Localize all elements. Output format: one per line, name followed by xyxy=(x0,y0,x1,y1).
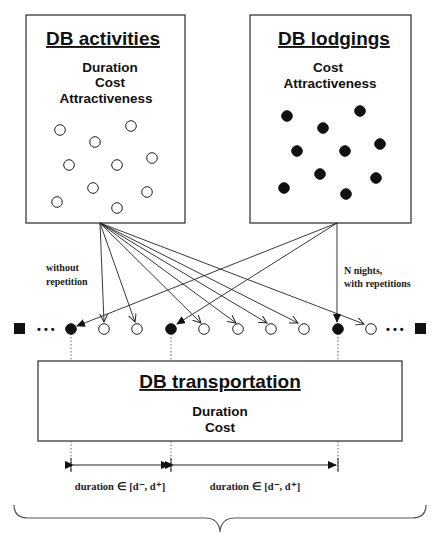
db-transportation-title: DB transportation xyxy=(139,371,301,392)
lodging-item-icon xyxy=(279,183,290,194)
end-ellipsis: • • • xyxy=(386,323,404,335)
activity-assignment-arrows xyxy=(100,223,364,324)
sequence-lodging-node xyxy=(66,324,77,335)
arrow-to-activity-slot xyxy=(100,223,267,323)
sequence-activity-node xyxy=(299,324,310,335)
trip-brace xyxy=(14,505,426,532)
activities-attr-cost: Cost xyxy=(95,75,126,90)
without-repetition-label-line1: without xyxy=(46,262,79,273)
activity-item-icon xyxy=(147,153,158,164)
sequence-activity-node xyxy=(199,324,210,335)
lodging-item-icon xyxy=(340,146,351,157)
arrow-to-activity-slot xyxy=(100,223,201,323)
arrow-to-activity-slot xyxy=(100,223,236,323)
lodging-item-icon xyxy=(315,169,326,180)
n-nights-label-line2: with repetitions xyxy=(344,278,411,289)
sequence-activity-node xyxy=(266,324,277,335)
lodgings-attr-cost: Cost xyxy=(313,60,344,75)
transportation-attr-duration: Duration xyxy=(192,404,248,419)
lodging-item-icon xyxy=(341,189,352,200)
db-transportation-box: DB transportation Duration Cost xyxy=(38,361,402,441)
activity-item-icon xyxy=(112,160,123,171)
n-nights-label-line1: N nights, xyxy=(344,265,383,276)
activity-item-icon xyxy=(142,187,153,198)
activity-item-icon xyxy=(52,197,63,208)
activities-attr-duration: Duration xyxy=(82,60,138,75)
lodging-item-icon xyxy=(375,139,386,150)
lodging-item-icon xyxy=(318,123,329,134)
sequence-activity-node xyxy=(366,324,377,335)
db-activities-title: DB activities xyxy=(46,28,160,49)
sequence-activity-node xyxy=(99,324,110,335)
lodging-item-icon xyxy=(282,111,293,122)
activity-item-icon xyxy=(55,125,66,136)
lodging-item-icon xyxy=(292,146,303,157)
end-square-icon xyxy=(415,323,426,334)
lodging-item-icon xyxy=(355,106,366,117)
without-repetition-label-line2: repetition xyxy=(46,276,88,287)
sequence-lodging-node xyxy=(333,324,344,335)
db-lodgings-title: DB lodgings xyxy=(278,28,390,49)
duration-label-2: duration ∈ [d⁻, d⁺] xyxy=(210,481,300,492)
start-square-icon xyxy=(14,323,25,334)
lodgings-attr-attractiveness: Attractiveness xyxy=(283,76,376,91)
activity-item-icon xyxy=(88,183,99,194)
sequence-activity-node xyxy=(233,324,244,335)
duration-label-1: duration ∈ [d⁻, d⁺] xyxy=(75,481,165,492)
trip-sequence: • • • • • • xyxy=(14,323,426,335)
arrow-to-activity-slot xyxy=(100,223,104,322)
sequence-activity-node xyxy=(132,324,143,335)
sequence-lodging-node xyxy=(166,324,177,335)
db-activities-box: DB activities Duration Cost Attractivene… xyxy=(26,15,185,223)
lodging-item-icon xyxy=(371,173,382,184)
activities-attr-attractiveness: Attractiveness xyxy=(59,91,152,106)
start-ellipsis: • • • xyxy=(37,323,55,335)
trip-planning-diagram: DB activities Duration Cost Attractivene… xyxy=(0,0,439,543)
activity-item-icon xyxy=(90,137,101,148)
arrow-to-activity-slot xyxy=(100,223,364,324)
activity-item-icon xyxy=(112,203,123,214)
activity-item-icon xyxy=(64,160,75,171)
activity-item-icon xyxy=(126,121,137,132)
duration-intervals: duration ∈ [d⁻, d⁺] duration ∈ [d⁻, d⁺] xyxy=(71,458,338,492)
transportation-attr-cost: Cost xyxy=(205,420,236,435)
arrow-to-lodging-slot xyxy=(177,223,337,324)
db-lodgings-box: DB lodgings Cost Attractiveness xyxy=(250,15,411,223)
